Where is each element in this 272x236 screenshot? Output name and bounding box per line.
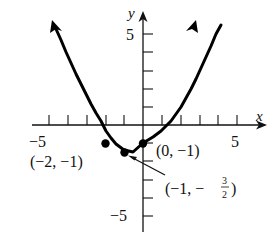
point-vertex: [120, 148, 128, 156]
y-tick-5: 5: [126, 26, 134, 43]
label-point-neg2-neg1: (−2, −1): [30, 153, 83, 171]
curve-right-arrow-icon: [186, 20, 198, 33]
x-axis: [32, 115, 267, 130]
vertex-fraction-denominator: 2: [222, 189, 227, 200]
vertex-pointer-line: [131, 157, 165, 175]
point-0-neg1: [139, 139, 147, 147]
x-tick-neg5: −5: [29, 133, 46, 150]
label-point-0-neg1: (0, −1): [156, 142, 200, 160]
y-axis-label: y: [126, 5, 135, 21]
label-vertex: (−1, − 3 2 ): [165, 175, 236, 200]
y-tick-neg5: −5: [110, 207, 127, 224]
vertex-label-prefix: (−1, −: [165, 180, 204, 198]
x-axis-label: x: [255, 108, 263, 124]
x-tick-5: 5: [231, 133, 239, 150]
y-axis: [139, 11, 154, 232]
vertex-fraction-numerator: 3: [222, 175, 227, 186]
parabola-curve-line: [56, 25, 221, 152]
parabola-graph: y x −5 5 5 −5 (−2, −1) (0, −1) (−1, − 3 …: [0, 0, 272, 236]
vertex-label-suffix: ): [231, 180, 236, 198]
point-neg2-neg1: [101, 139, 109, 147]
